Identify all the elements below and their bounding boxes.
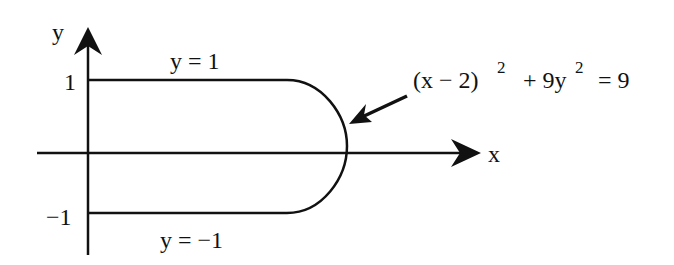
pointer-arrow-icon	[349, 96, 407, 124]
x-axis-label: x	[488, 141, 500, 167]
ellipse-eq-mid: + 9y	[523, 67, 567, 93]
region-boundary	[88, 80, 347, 213]
y-axis	[74, 27, 102, 255]
top-line-label: y = 1	[170, 48, 220, 74]
region-diagram: y x 1 −1 y = 1 y = −1 (x − 2) 2 + 9y 2 =…	[0, 0, 674, 265]
bottom-line-label: y = −1	[160, 227, 223, 253]
ellipse-eq-exp1: 2	[497, 58, 506, 77]
y-tick-1: 1	[64, 69, 76, 95]
ellipse-eq-end: = 9	[598, 67, 630, 93]
x-axis	[37, 139, 481, 167]
y-axis-label: y	[52, 19, 64, 45]
ellipse-eq-base: (x − 2)	[413, 67, 479, 93]
ellipse-equation-label: (x − 2) 2 + 9y 2 = 9	[413, 58, 630, 93]
ellipse-eq-exp2: 2	[575, 58, 584, 77]
y-tick-minus-1: −1	[46, 204, 72, 230]
